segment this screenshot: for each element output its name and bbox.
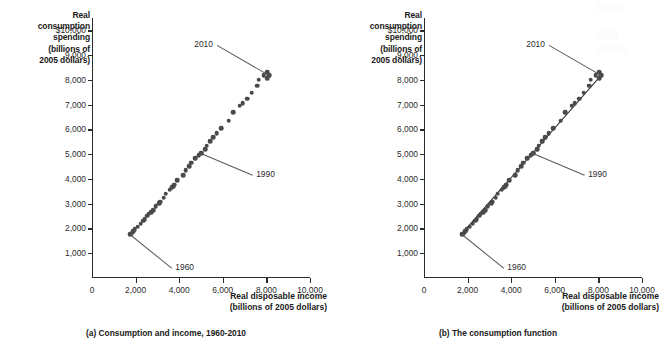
- data-point: [189, 161, 194, 166]
- y-axis-tick: [420, 30, 425, 31]
- y-axis-tick-label: 5,000: [65, 149, 86, 159]
- y-axis-tick: [88, 154, 93, 155]
- y-axis-line: [424, 18, 425, 278]
- y-axis-tick: [88, 179, 93, 180]
- annotation-2010-label: 2010: [194, 39, 213, 49]
- annotation-1990-leader-line: [201, 153, 253, 176]
- annotation-1960-label: 1960: [175, 262, 194, 272]
- data-point: [493, 195, 498, 200]
- y-axis-tick-label: 4,000: [65, 174, 86, 184]
- data-point: [231, 110, 236, 115]
- y-axis-tick: [420, 55, 425, 56]
- x-axis-tick: [179, 278, 180, 283]
- plot-area-b: 1,0002,0003,0004,0005,0006,0007,0008,000…: [424, 18, 642, 278]
- x-axis-tick-label: 0: [90, 285, 95, 295]
- y-axis-tick: [420, 204, 425, 205]
- data-point: [172, 183, 177, 188]
- data-point: [214, 131, 219, 136]
- x-axis-title-line-2: (billions of 2005 dollars): [437, 302, 659, 313]
- x-axis-title-line-1: Real disposable income: [105, 291, 327, 302]
- figure-root: Real consumption spending (billions of 2…: [0, 0, 664, 347]
- y-axis-tick-label: 6,000: [65, 124, 86, 134]
- x-axis-tick: [310, 278, 311, 283]
- y-axis-tick-label: $10,000: [56, 25, 86, 35]
- panel-caption-a: (a) Consumption and income, 1960-2010: [0, 328, 332, 338]
- y-axis-tick: [420, 253, 425, 254]
- y-axis-tick-label: 3,000: [397, 199, 418, 209]
- y-axis-title-line-4: (billions of: [222, 44, 422, 55]
- y-axis-tick-label: 6,000: [397, 124, 418, 134]
- scan-artifact: [596, 4, 622, 11]
- annotation-1990-leader-line: [533, 153, 585, 176]
- data-point: [164, 192, 169, 197]
- panel-caption-b: (b) The consumption function: [332, 328, 664, 338]
- x-axis-tick: [642, 278, 643, 283]
- data-point: [240, 101, 245, 106]
- data-point: [581, 90, 586, 95]
- data-point: [587, 84, 592, 89]
- y-axis-tick-label: 1,000: [397, 248, 418, 258]
- data-point: [521, 161, 526, 166]
- x-axis-tick: [511, 278, 512, 283]
- data-point: [577, 96, 582, 101]
- x-axis-tick: [468, 278, 469, 283]
- annotation-1960-leader-line: [130, 235, 173, 270]
- data-point: [496, 192, 501, 197]
- y-axis-tick-label: 5,000: [397, 149, 418, 159]
- y-axis-tick: [420, 80, 425, 81]
- annotation-1960-leader-line: [462, 235, 505, 270]
- y-axis-tick: [88, 253, 93, 254]
- y-axis-tick: [88, 80, 93, 81]
- data-point: [159, 199, 164, 204]
- y-axis-tick-label: 3,000: [65, 199, 86, 209]
- y-axis-line: [92, 18, 93, 278]
- data-point: [546, 131, 551, 136]
- annotation-2010-leader-line: [549, 45, 601, 76]
- y-axis-tick-label: 9,000: [65, 50, 86, 60]
- y-axis-tick-label: 4,000: [397, 174, 418, 184]
- y-axis-tick: [88, 30, 93, 31]
- data-point: [181, 173, 186, 178]
- data-point: [563, 110, 568, 115]
- data-point: [543, 135, 548, 140]
- data-point: [151, 208, 156, 213]
- x-axis-tick: [136, 278, 137, 283]
- data-point: [558, 118, 563, 123]
- data-point: [245, 96, 250, 101]
- data-point: [226, 118, 231, 123]
- data-point: [504, 183, 509, 188]
- y-axis-tick: [88, 228, 93, 229]
- y-axis-tick: [420, 105, 425, 106]
- data-point: [255, 84, 260, 89]
- y-axis-tick: [420, 154, 425, 155]
- y-axis-title-line-1: Real: [222, 10, 422, 21]
- x-axis-title-line-1: Real disposable income: [437, 291, 659, 302]
- x-axis-line: [424, 277, 642, 278]
- y-axis-tick: [420, 228, 425, 229]
- x-axis-line: [92, 277, 310, 278]
- y-axis-tick-label: $10,000: [388, 25, 418, 35]
- annotation-1990-label: 1990: [588, 169, 607, 179]
- data-point: [572, 101, 577, 106]
- y-axis-tick: [88, 204, 93, 205]
- data-point: [205, 143, 210, 148]
- x-axis-tick: [555, 278, 556, 283]
- data-point: [211, 135, 216, 140]
- x-axis-title-b: Real disposable income (billions of 2005…: [437, 291, 659, 313]
- data-point: [513, 173, 518, 178]
- data-point: [161, 195, 166, 200]
- x-axis-title-a: Real disposable income (billions of 2005…: [105, 291, 327, 313]
- data-point: [588, 78, 593, 83]
- y-axis-tick: [420, 179, 425, 180]
- y-axis-tick-label: 7,000: [397, 100, 418, 110]
- y-axis-tick-label: 8,000: [397, 75, 418, 85]
- data-point: [507, 178, 512, 183]
- data-point: [491, 199, 496, 204]
- y-axis-tick-label: 2,000: [397, 223, 418, 233]
- y-axis-tick-label: 2,000: [65, 223, 86, 233]
- scan-artifact: [596, 46, 626, 54]
- y-axis-tick-label: 9,000: [397, 50, 418, 60]
- data-point: [175, 178, 180, 183]
- data-point: [256, 78, 261, 83]
- y-axis-tick-label: 8,000: [65, 75, 86, 85]
